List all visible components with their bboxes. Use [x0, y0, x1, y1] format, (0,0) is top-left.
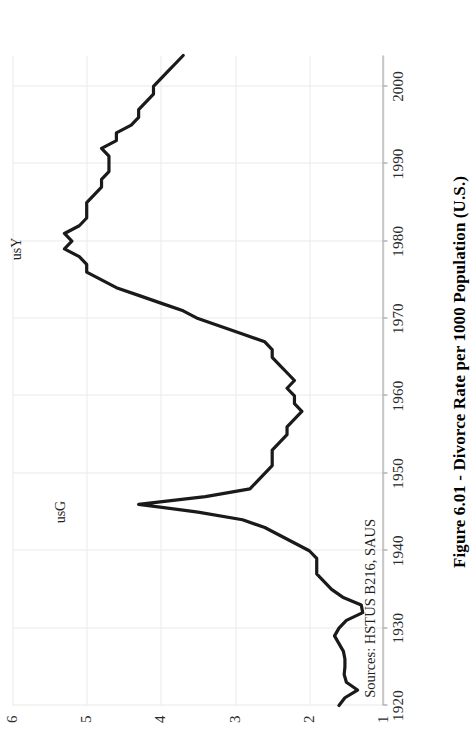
plot-area: 192019301940195019601970198019902000 123… [12, 55, 383, 705]
y-tick-label-3: 3 [226, 715, 243, 723]
x-tick-mark-2000 [383, 85, 387, 86]
figure-container: 192019301940195019601970198019902000 123… [0, 0, 475, 743]
x-tick-mark-1980 [383, 240, 387, 241]
y-tick-label-2: 2 [300, 715, 317, 723]
x-tick-label-1930: 1930 [389, 612, 406, 643]
x-tick-label-1950: 1950 [389, 457, 406, 488]
x-tick-mark-1990 [383, 162, 387, 163]
x-tick-mark-1920 [383, 704, 387, 705]
annotation-usY: usY [8, 237, 24, 260]
x-tick-label-1980: 1980 [389, 225, 406, 256]
figure-title: Figure 6.01 - Divorce Rate per 1000 Popu… [449, 0, 469, 743]
y-tick-label-5: 5 [78, 715, 95, 723]
y-tick-label-1: 1 [375, 715, 392, 723]
x-tick-mark-1930 [383, 627, 387, 628]
x-tick-label-2000: 2000 [389, 71, 406, 102]
divorce-rate-line-series [12, 55, 383, 705]
source-note: Sources: HSTUS B216, SAUS [361, 518, 378, 697]
x-tick-mark-1970 [383, 317, 387, 318]
x-tick-mark-1950 [383, 472, 387, 473]
x-tick-label-1940: 1940 [389, 535, 406, 566]
x-tick-label-1960: 1960 [389, 380, 406, 411]
x-tick-mark-1940 [383, 549, 387, 550]
x-tick-mark-1960 [383, 394, 387, 395]
annotation-usG: usG [52, 500, 68, 523]
y-tick-label-4: 4 [152, 715, 169, 723]
x-tick-label-1990: 1990 [389, 148, 406, 179]
x-tick-label-1970: 1970 [389, 303, 406, 334]
y-tick-label-6: 6 [4, 715, 21, 723]
